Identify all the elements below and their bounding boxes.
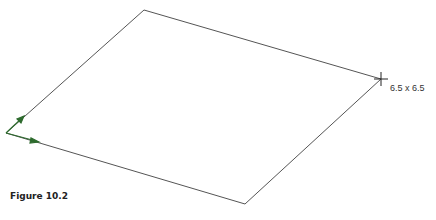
axis-arrows-icon — [6, 116, 39, 143]
dimension-label: 6.5 x 6.5 — [390, 83, 425, 93]
figure-caption: Figure 10.2 — [10, 191, 68, 201]
plane-outline — [6, 10, 381, 204]
plane-diagram — [0, 0, 436, 220]
